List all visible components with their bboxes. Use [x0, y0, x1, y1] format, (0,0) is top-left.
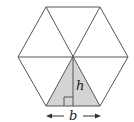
- hexagon-diagram: [0, 0, 134, 122]
- arrowhead-left-icon: [46, 114, 52, 119]
- height-label: h: [76, 79, 84, 92]
- arrowhead-right-icon: [95, 114, 101, 119]
- base-label: b: [69, 109, 77, 122]
